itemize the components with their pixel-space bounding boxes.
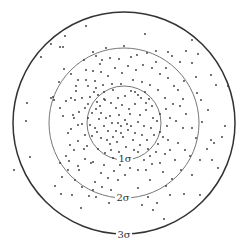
- scatter-point: [144, 91, 146, 93]
- scatter-point: [101, 59, 103, 61]
- scatter-point: [62, 115, 64, 117]
- scatter-point: [95, 55, 97, 57]
- scatter-point: [109, 143, 111, 145]
- scatter-point: [149, 155, 151, 157]
- scatter-point: [142, 64, 144, 66]
- scatter-point: [137, 169, 139, 171]
- scatter-point: [143, 125, 145, 127]
- scatter-point: [96, 101, 98, 103]
- scatter-point: [59, 107, 61, 109]
- scatter-point: [92, 161, 94, 163]
- scatter-point: [87, 85, 89, 87]
- scatter-point: [86, 145, 88, 147]
- scatter-point: [137, 187, 139, 189]
- scatter-point: [126, 123, 128, 125]
- scatter-point: [77, 79, 79, 81]
- scatter-point: [117, 122, 119, 124]
- scatter-point: [191, 62, 193, 64]
- scatter-point: [174, 159, 176, 161]
- scatter-point: [137, 121, 139, 123]
- scatter-point: [163, 218, 165, 220]
- scatter-point: [71, 194, 73, 196]
- scatter-point: [83, 148, 85, 150]
- scatter-point: [121, 72, 123, 74]
- scatter-point: [105, 117, 107, 119]
- scatter-point: [115, 107, 117, 109]
- scatter-point: [70, 73, 72, 75]
- scatter-point: [111, 83, 113, 85]
- scatter-point: [207, 109, 209, 111]
- scatter-point: [118, 114, 120, 116]
- scatter-point: [107, 177, 109, 179]
- 2-sigma-label: 2σ: [116, 192, 129, 203]
- scatter-point: [195, 137, 197, 139]
- scatter-point: [77, 165, 79, 167]
- scatter-point: [85, 69, 87, 71]
- scatter-point: [167, 77, 169, 79]
- scatter-point: [81, 97, 83, 99]
- scatter-point: [166, 125, 168, 127]
- scatter-point: [134, 91, 136, 93]
- scatter-point: [129, 113, 131, 115]
- scatter-point: [95, 108, 97, 110]
- scatter-point: [90, 162, 92, 164]
- scatter-point: [74, 179, 76, 181]
- scatter-point: [114, 67, 116, 69]
- scatter-point: [100, 112, 102, 114]
- scatter-point: [53, 99, 55, 101]
- scatter-point: [112, 89, 114, 91]
- scatter-point: [143, 159, 145, 161]
- scatter-point: [72, 114, 74, 116]
- scatter-point: [150, 127, 152, 129]
- scatter-point: [185, 113, 187, 115]
- scatter-point: [109, 57, 111, 59]
- scatter-point: [132, 139, 134, 141]
- scatter-point: [58, 81, 60, 83]
- scatter-point: [169, 149, 171, 151]
- scatter-point: [217, 167, 219, 169]
- scatter-point: [171, 55, 173, 57]
- scatter-point: [89, 96, 91, 98]
- scatter-point: [151, 67, 153, 69]
- scatter-point: [70, 97, 72, 99]
- scatter-point: [68, 160, 70, 162]
- scatter-point: [50, 97, 52, 99]
- scatter-point: [61, 176, 63, 178]
- scatter-point: [191, 127, 193, 129]
- scatter-point: [124, 95, 126, 97]
- scatter-point: [25, 120, 27, 122]
- scatter-point: [128, 108, 130, 110]
- scatter-point: [156, 202, 158, 204]
- scatter-point: [60, 193, 62, 195]
- scatter-point: [50, 43, 52, 45]
- scatter-point: [85, 79, 87, 81]
- scatter-point: [136, 54, 138, 56]
- scatter-point: [29, 156, 31, 158]
- scatter-point: [146, 52, 148, 54]
- scatter-point: [95, 196, 97, 198]
- 3-sigma-label: 3σ: [117, 229, 130, 240]
- scatter-point: [129, 167, 131, 169]
- scatter-point: [191, 39, 193, 41]
- scatter-point: [182, 127, 184, 129]
- scatter-point: [137, 94, 139, 96]
- scatter-point: [125, 146, 127, 148]
- scatter-point: [146, 139, 148, 141]
- scatter-point: [89, 124, 91, 126]
- scatter-point: [78, 169, 80, 171]
- scatter-point: [132, 79, 134, 81]
- scatter-point: [156, 120, 158, 122]
- scatter-point: [169, 194, 171, 196]
- scatter-point: [118, 58, 120, 60]
- scatter-point: [120, 132, 122, 134]
- scatter-point: [162, 136, 164, 138]
- scatter-point: [122, 136, 124, 138]
- scatter-point: [180, 169, 182, 171]
- scatter-point: [103, 164, 105, 166]
- scatter-point: [227, 85, 229, 87]
- scatter-point: [184, 149, 186, 151]
- scatter-point: [102, 84, 104, 86]
- scatter-point: [117, 97, 119, 99]
- scatter-point: [139, 144, 141, 146]
- scatter-point: [99, 105, 101, 107]
